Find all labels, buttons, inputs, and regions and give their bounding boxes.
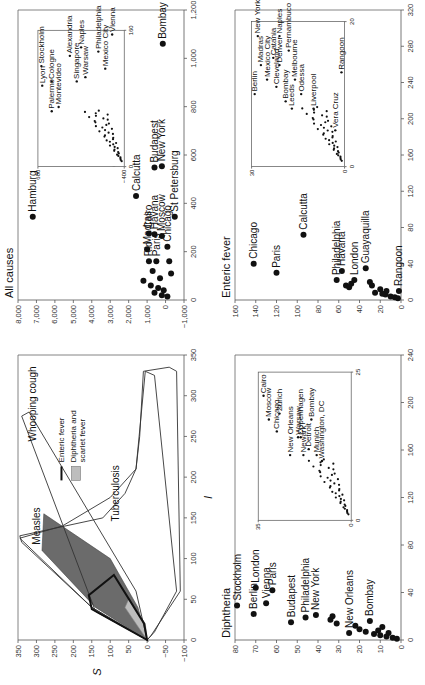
inset-cluster-point [112,143,114,145]
inset-cluster-point [104,134,106,136]
inset-data-point [111,33,113,35]
point-label: New York [310,567,321,610]
inset-data-point [340,71,342,73]
x-tick-label: 600 [189,149,198,162]
inset-point-label: Cairo [259,374,268,394]
figure: 050100150200250300350−100−50050100150200… [0,0,425,685]
inset-point-label: Liverpool [309,73,318,106]
inset-point-label: Odessa [297,63,306,91]
legend-label: scarlet fever [78,418,87,462]
inset-y-tick-label: 35 [255,523,261,530]
inset-data-point [51,80,53,82]
panel-envelope: 050100150200250300350−100−50050100150200… [14,349,215,676]
inset-cluster-point [84,111,86,113]
inset-cluster-point [320,464,322,466]
data-point [274,270,280,276]
inset-data-point [278,412,280,414]
inset-point-label: New York [253,0,262,34]
data-point [372,290,378,296]
inset-point-label: Zurich [275,389,284,411]
inset-cluster-point [344,503,346,505]
inset-cluster-point [340,498,342,500]
data-point [394,636,400,642]
data-point [263,600,269,606]
inset-cluster-point [333,145,335,147]
point-label: Paris [151,234,162,257]
y-tick-label: 50 [124,645,133,653]
inset-y-tick-label: 30 [249,169,255,176]
data-point [157,275,163,281]
y-tick-label: 150 [87,645,96,658]
inset-cluster-point [109,145,111,147]
data-point [386,630,392,636]
inset-cluster-point [111,128,113,130]
inset-cluster-point [335,492,337,494]
inset-cluster-point [117,147,119,149]
inset-x-tick-label: 0 [355,518,361,522]
point-label: Havana [336,231,347,266]
panel-enteric-fever: 0408012016020024028032002040608010012014… [220,0,415,318]
inset-point-label: Vera Cruz [331,92,340,128]
y-tick-label: 0 [143,645,152,649]
panel-all-causes: 02004006008001,0001,200−1,00001,0002,000… [3,1,198,329]
inset-data-point [97,50,99,52]
x-tick-label: 120 [406,185,415,198]
inset-cluster-point [95,115,97,117]
inset-x-tick-label: 0 [349,164,355,168]
y-tick-label: 300 [32,645,41,658]
data-point [303,614,309,620]
x-tick-label: 0 [406,298,415,302]
inset-cluster-point [339,156,341,158]
y-tick-label: −100 [180,645,189,662]
inset-cluster-point [324,121,326,123]
inset-data-point [57,106,59,108]
data-point [339,268,345,274]
inset-cluster-point [320,475,322,477]
region-label: Tuberculosis [110,465,121,521]
inset-data-point [278,35,280,37]
inset-cluster-point [342,506,344,508]
inset-point-label: Montevideo [54,63,63,105]
x-tick-label: 80 [406,223,415,231]
data-point [379,624,385,630]
inset-cluster-point [112,133,114,135]
x-tick-label: 200 [406,396,415,409]
inset-cluster-point [338,484,340,486]
point-label: London [250,549,261,582]
y-tick-label: 350 [14,645,23,658]
inset-data-point [312,107,314,109]
point-label: Budapest [286,575,297,617]
x-tick-label: 320 [406,4,415,17]
x-tick-label: 150 [189,512,198,525]
y-tick-label: 10 [376,645,385,653]
inset-cluster-point [113,148,115,150]
inset-cluster-point [107,132,109,134]
inset-cluster-point [318,470,320,472]
inset-cluster-point [332,142,334,144]
inset-cluster-point [328,139,330,141]
inset-cluster-point [98,110,100,112]
point-label: Paris [267,562,278,585]
data-point [251,611,257,617]
data-point [330,613,336,619]
inset-data-point [334,129,336,131]
panel-title: Enteric fever [220,236,232,298]
inset-cluster-point [327,477,329,479]
inset-point-label: Lyon [38,66,47,83]
inset-cluster-point [331,474,333,476]
inset-point-label: Berlin [250,71,259,91]
inset-data-point [291,107,293,109]
inset-cluster-point [313,111,315,113]
inset-data-point [84,76,86,78]
inset-cluster-point [312,465,314,467]
y-tick-label: 6,000 [50,305,59,324]
inset-cluster-point [328,467,330,469]
inset-cluster-point [88,116,90,118]
x-tick-label: 240 [406,349,415,362]
y-tick-label: 60 [334,305,343,313]
data-point [395,295,401,301]
inset-cluster-point [323,127,325,129]
legend-fill-marker [71,466,80,480]
y-tick-label: 3,000 [106,305,115,324]
x-tick-label: 40 [406,260,415,268]
